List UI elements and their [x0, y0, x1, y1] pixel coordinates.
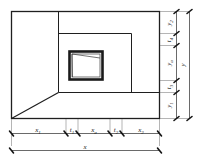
- dim-label-ya: ya: [165, 60, 174, 67]
- dim-label-t2: t2: [114, 126, 119, 135]
- technical-diagram: x1 t1 xa t2 x2 x: [0, 0, 203, 165]
- room-drawing: [12, 12, 160, 119]
- opening-left-edge: [72, 54, 73, 77]
- outer-wall-rect: [12, 12, 160, 119]
- vertical-overall-dimension: y: [179, 10, 192, 121]
- dim-label-y2: y2: [165, 20, 174, 27]
- dim-label-y1: y1: [165, 102, 174, 109]
- dim-label-xa: xa: [90, 126, 97, 135]
- dim-label-x1: x1: [34, 126, 41, 135]
- perspective-floor-edge: [12, 93, 59, 119]
- diagram-canvas: x1 t1 xa t2 x2 x: [0, 0, 203, 165]
- dim-label-t3: t3: [165, 84, 174, 89]
- dim-label-y-overall: y: [179, 63, 187, 68]
- dim-label-x-overall: x: [82, 143, 87, 151]
- horizontal-overall-dimension: x: [10, 143, 162, 154]
- dim-label-t1: t1: [70, 126, 74, 135]
- opening-perspective-diagonal: [72, 54, 100, 58]
- dim-label-x2: x2: [137, 126, 144, 135]
- dim-label-t4: t4: [165, 37, 174, 42]
